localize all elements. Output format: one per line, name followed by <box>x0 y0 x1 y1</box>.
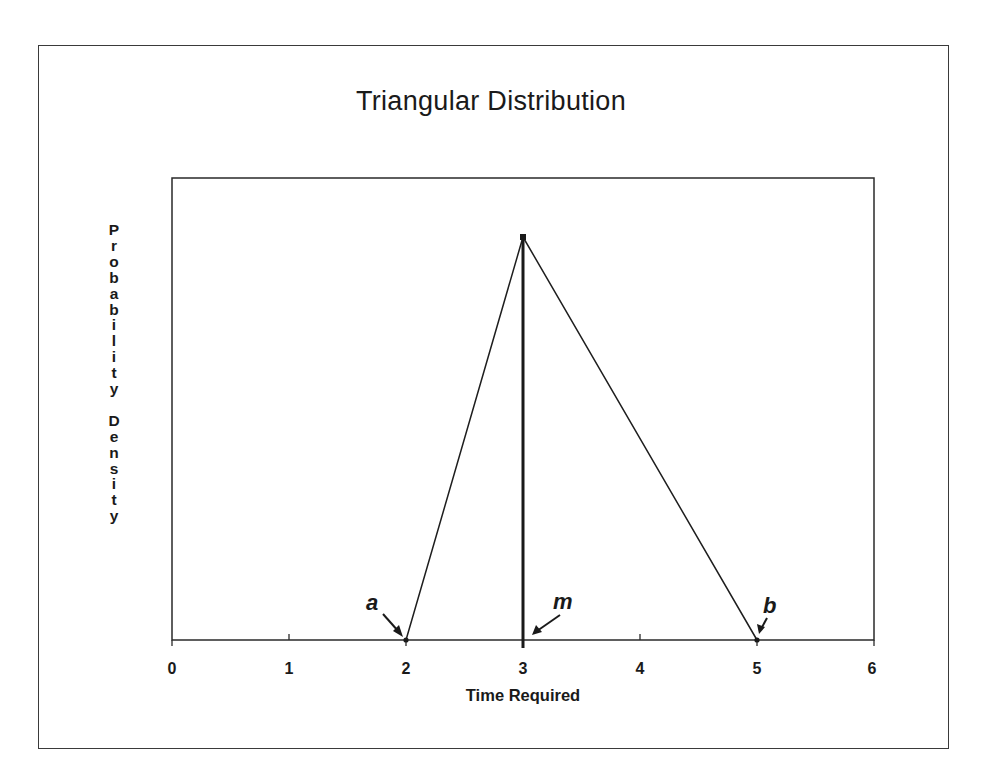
plot-area: 0 1 2 3 4 5 6 a m b <box>0 0 982 779</box>
arrow-m-head-icon <box>532 625 542 635</box>
x-tick-label: 3 <box>519 660 528 677</box>
x-tick-label: 4 <box>636 660 645 677</box>
annotation-a: a <box>366 590 378 615</box>
x-tick-label: 5 <box>753 660 762 677</box>
x-tick-label: 0 <box>168 660 177 677</box>
arrow-m-shaft <box>537 615 560 631</box>
point-b-marker <box>754 637 759 642</box>
x-axis-tick-labels: 0 1 2 3 4 5 6 <box>168 660 877 677</box>
x-tick-label: 2 <box>402 660 411 677</box>
x-axis-label: Time Required <box>0 686 982 705</box>
annotation-b: b <box>763 593 776 618</box>
point-a-marker <box>403 637 408 642</box>
x-tick-label: 6 <box>868 660 877 677</box>
triangular-density-line <box>406 237 757 640</box>
annotation-m: m <box>553 589 573 614</box>
peak-marker <box>520 234 526 240</box>
x-tick-label: 1 <box>285 660 294 677</box>
